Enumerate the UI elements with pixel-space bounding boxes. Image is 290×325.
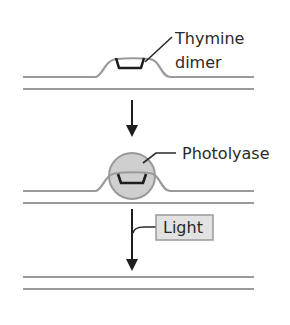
thymine-dimer-label-line2: dimer (175, 53, 222, 72)
stage-repaired-dna (23, 277, 254, 289)
photolyase-repair-diagram: Thymine dimer Photolyase Light (0, 0, 290, 325)
arrow-2-head-icon (126, 259, 138, 271)
thymine-dimer-label-line1: Thymine (174, 29, 244, 48)
light-label: Light (163, 218, 203, 237)
arrow-step-1 (126, 100, 138, 137)
stage-damaged-dna: Thymine dimer (23, 29, 254, 89)
thymine-dimer-leader-line (145, 37, 172, 62)
stage-enzyme-bound: Photolyase (23, 144, 270, 203)
arrow-1-head-icon (126, 125, 138, 137)
light-leader-line (133, 227, 156, 233)
photolyase-label: Photolyase (182, 144, 270, 163)
arrow-step-2: Light (126, 209, 213, 271)
